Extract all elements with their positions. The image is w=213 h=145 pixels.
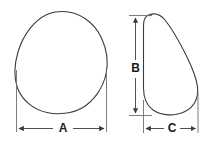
teardrop-profile-outline-path [144, 14, 198, 115]
dimension-a: A [19, 121, 104, 135]
egg-outline-path [15, 12, 107, 114]
front-view-group [15, 12, 107, 114]
diagram-canvas: A B C [0, 0, 213, 145]
technical-drawing-svg: A B C [0, 0, 213, 145]
dimension-label-b: B [131, 61, 140, 75]
dimension-b: B [131, 18, 140, 113]
dimension-c: C [146, 121, 196, 135]
dimension-label-a: A [59, 121, 68, 135]
dimension-label-c: C [168, 121, 177, 135]
side-view-group [144, 14, 198, 115]
